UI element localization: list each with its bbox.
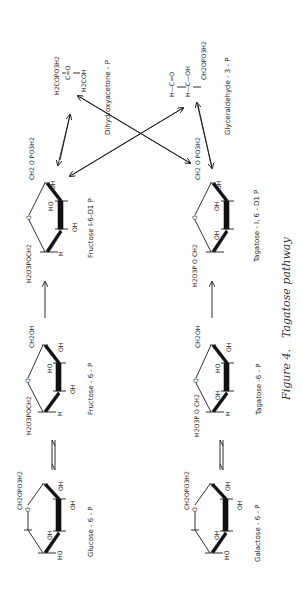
fru6p-left-group: H2O3POCH2 xyxy=(25,396,32,435)
fru6p-right-group: CH2OH xyxy=(28,325,35,348)
tag16-sub-top: OH xyxy=(213,201,220,211)
arrow-fructose16-dhap xyxy=(58,115,70,165)
g3p-name: Glyceraldehyde - 3 - P xyxy=(224,58,232,136)
caption-number: Figure 4. xyxy=(280,349,293,401)
tag6p-sub-right: OH xyxy=(225,342,232,352)
molecule-galactose-6-phosphate: CH2OPO3H2 O OH OH OH HO Galactose - 6 - … xyxy=(183,471,262,562)
glc6p-sub-1: HO xyxy=(56,550,63,560)
fru6p-name: Fructose - 6 - P xyxy=(87,363,95,415)
gal6p-sub-2: OH xyxy=(213,530,220,540)
tag16-ring-o: O xyxy=(191,215,198,220)
dhap-name: Dihydroxyacetone - P xyxy=(104,60,112,135)
gal6p-name: Galactose - 6 - P xyxy=(254,505,262,562)
fru16-left-group: H2O3POCH2 xyxy=(25,244,32,283)
fru16-sub-bottom: H xyxy=(57,251,64,256)
tag6p-sub-bottom: H xyxy=(224,411,231,416)
tag6p-ring-o: O xyxy=(192,378,199,383)
fru6p-sub-mid: OH xyxy=(69,384,76,394)
arrow-glucose-to-fructose xyxy=(52,440,55,470)
molecule-dhap: H2COPO3H2 C=O H2COH Dihydroxyacetone - P xyxy=(53,56,112,135)
tag6p-sub-mid: OH xyxy=(214,390,221,400)
g3p-line3: CH2OPO3H2 xyxy=(200,41,207,80)
tag6p-left-group: H2O3P O CH2 xyxy=(193,394,200,437)
dhap-line3: H2COH xyxy=(80,69,87,92)
fru6p-sub-top: HO xyxy=(46,363,53,373)
gal6p-ring-o: O xyxy=(191,507,198,512)
molecule-glucose-6-phosphate: CH2OPO3H2 O OH OH OH HO Glucose - 6 - P xyxy=(16,471,95,560)
tagatose-pathway-figure: Figure 4. Tagatose pathway H2COPO3H2 C=O… xyxy=(0,0,303,595)
tag16-name: Tagatose - I, 6 - D1 P xyxy=(253,190,261,263)
molecule-fructose-6-phosphate: CH2OH O OH HO OH H H2O3POCH2 Fructose - … xyxy=(24,325,95,435)
fru16-sub-mid: OH xyxy=(71,222,78,232)
glc6p-name: Glucose - 6 - P xyxy=(87,506,95,557)
tag16-sub-right: OH xyxy=(215,180,222,190)
gal6p-sub-4: OH xyxy=(224,481,231,491)
fru16-right-group: CH2 O PO3H2 xyxy=(28,137,35,180)
fru16-sub-right: OH xyxy=(49,180,56,190)
glc6p-sub-4: OH xyxy=(57,481,64,491)
glc6p-sub-3: OH xyxy=(69,500,76,510)
glc6p-sub-2: OH xyxy=(46,530,53,540)
tag6p-name: Tagatose -6 - P xyxy=(255,363,263,416)
tag6p-sub-top: HO xyxy=(214,363,221,373)
gal6p-sub-3: OH xyxy=(236,500,243,510)
arrow-fructose16-g3p xyxy=(70,108,183,176)
tag16-sub-mid: OH xyxy=(213,230,220,240)
molecule-g3p: H—C=O H—C—OH CH2OPO3H2 Glyceraldehyde - … xyxy=(168,41,232,135)
g3p-line2: H—C—OH xyxy=(184,66,191,97)
tag16-left-group: H2O3P O CH2 xyxy=(191,244,198,287)
fru16-name: Fructose I-6-D1 P xyxy=(87,198,95,258)
tag6p-right-group: CH2OH xyxy=(194,325,201,348)
fru6p-ring-o: O xyxy=(24,378,31,383)
molecule-tagatose-6-phosphate: CH2OH O OH HO OH H H2O3P O CH2 Tagatose … xyxy=(192,325,263,437)
gal6p-top-group: CH2OPO3H2 xyxy=(183,471,190,510)
fru16-ring-o: O xyxy=(25,215,32,220)
arrow-galactose-to-tagatose xyxy=(220,440,223,470)
tag16-right-group: CH2 O PO3H2 xyxy=(194,137,201,180)
molecule-tagatose-16-bisphosphate: CH2 O PO3H2 O OH OH OH H2O3P O CH2 Tagat… xyxy=(191,137,261,287)
g3p-line1: H—C=O xyxy=(168,72,175,97)
arrow-tagatose16-dhap xyxy=(78,96,190,163)
fru6p-sub-bottom: H xyxy=(56,411,63,416)
dhap-line1: H2COPO3H2 xyxy=(53,56,60,95)
fru16-sub-top: HO xyxy=(47,201,54,211)
figure-caption: Figure 4. Tagatose pathway xyxy=(280,237,293,401)
fru6p-sub-right: OH xyxy=(57,342,64,352)
glc6p-ring-o: O xyxy=(24,507,31,512)
gal6p-sub-1: HO xyxy=(223,550,230,560)
caption-title: Tagatose pathway xyxy=(280,237,293,338)
glc6p-top-group: CH2OPO3H2 xyxy=(16,471,23,510)
